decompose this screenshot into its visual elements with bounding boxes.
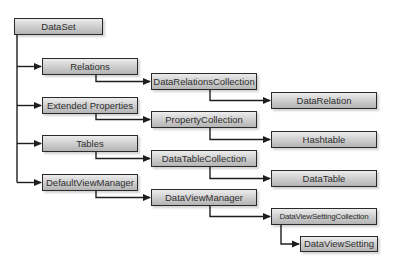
node-dataset: DataSet	[14, 18, 103, 35]
node-dataviewsetting: DataViewSetting	[300, 236, 378, 252]
node-datarelation: DataRelation	[271, 92, 377, 109]
connector-arrow-defaultviewmanager-to-dataviewmanager	[96, 191, 150, 198]
connector-arrow-tables-to-datatablecollection	[96, 152, 150, 159]
node-defaultviewmanager: DefaultViewManager	[42, 174, 138, 191]
node-dataviewsettingcollection: DataViewSettingCollection	[271, 208, 377, 225]
connector-arrow-extendedproperties-to-propertycollection	[96, 114, 150, 120]
connector-arrow-datarelationscollection-to-datarelation	[210, 90, 270, 101]
dataset-hierarchy-diagram: DataSet Relations DataRelationsCollectio…	[0, 0, 396, 267]
node-dataviewmanager: DataViewManager	[151, 189, 257, 206]
connector-arrow-relations-to-datarelationscollection	[96, 75, 150, 82]
node-relations: Relations	[42, 58, 138, 75]
node-datatablecollection: DataTableCollection	[151, 150, 257, 167]
connector-arrow-dataviewmanager-to-dataviewsettingcollection	[210, 206, 270, 217]
connector-arrow-propertycollection-to-hashtable	[210, 128, 270, 140]
node-datarelationscollection: DataRelationsCollection	[151, 73, 257, 90]
node-datatable: DataTable	[271, 170, 377, 187]
connector-arrow-datatablecollection-to-datatable	[210, 167, 270, 179]
node-propertycollection: PropertyCollection	[151, 111, 257, 128]
node-extended-properties: Extended Properties	[42, 97, 138, 114]
node-hashtable: Hashtable	[271, 131, 377, 148]
connector-arrow-dataviewsettingcollection-to-dataviewsetting	[281, 225, 299, 244]
node-tables: Tables	[42, 135, 138, 152]
